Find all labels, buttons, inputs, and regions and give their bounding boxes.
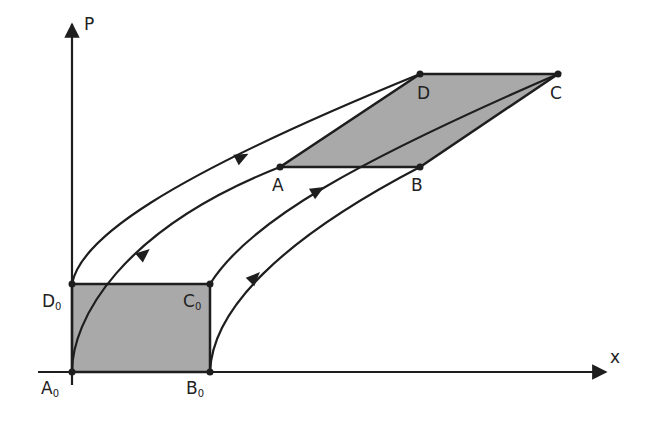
vertex-dot-d (417, 71, 424, 78)
x-axis-label: x (610, 349, 620, 366)
vertex-dot-d0 (69, 281, 76, 288)
vertex-dot-b0 (207, 369, 214, 376)
vertex-dot-a (277, 164, 284, 171)
vertex-label-d: D (417, 85, 430, 102)
trajectory-arrow-icon (135, 244, 153, 262)
phase-space-diagram (0, 0, 655, 424)
p-axis-label: P (84, 16, 94, 33)
vertex-label-d0: D0 (42, 293, 61, 312)
vertex-label-b: B (411, 177, 423, 194)
vertex-label-c: C (550, 85, 562, 102)
trajectory-arrow-icon (309, 182, 327, 199)
trajectory-arrow-icon (246, 268, 264, 286)
vertex-label-a0: A0 (41, 380, 59, 399)
vertex-dot-b (417, 164, 424, 171)
vertex-dot-c (555, 71, 562, 78)
trajectory-arrow-icon (233, 148, 251, 165)
trajectory-d0-to-d (72, 74, 420, 284)
vertex-label-c0: C0 (183, 293, 201, 312)
vertex-label-b0: B0 (186, 380, 204, 399)
vertex-dot-c0 (207, 281, 214, 288)
vertex-label-a: A (272, 177, 284, 194)
vertex-dot-a0 (69, 369, 76, 376)
